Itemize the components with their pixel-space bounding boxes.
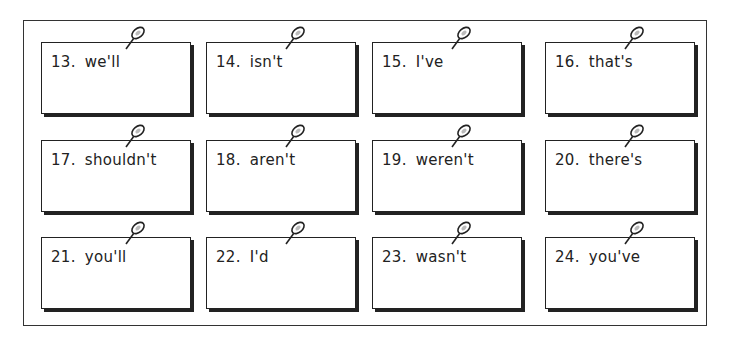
card-number: 22. [216,248,241,266]
card-label: 21.you'll [51,248,127,266]
word-card: 24.you've [545,237,695,309]
card-number: 19. [382,151,407,169]
card-label: 15.I've [382,53,444,71]
card-number: 17. [51,151,76,169]
card-word: I've [416,53,444,71]
card-word: I'd [250,248,269,266]
pushpin-icon [122,123,148,149]
card-word: you've [589,248,641,266]
word-card: 21.you'll [41,237,191,309]
card-word: that's [589,53,633,71]
card-label: 18.aren't [216,151,295,169]
pushpin-icon [448,25,474,51]
word-card: 15.I've [372,42,522,114]
card-label: 16.that's [555,53,633,71]
card-word: shouldn't [85,151,157,169]
pushpin-icon [282,123,308,149]
pushpin-icon [448,123,474,149]
card-word: we'll [85,53,120,71]
pushpin-icon [122,220,148,246]
card-word: wasn't [416,248,467,266]
pushpin-icon [621,123,647,149]
card-number: 15. [382,53,407,71]
card-label: 14.isn't [216,53,283,71]
card-number: 23. [382,248,407,266]
card-number: 16. [555,53,580,71]
pushpin-icon [621,25,647,51]
word-card: 18.aren't [206,140,356,212]
word-card: 13.we'll [41,42,191,114]
pushpin-icon [621,220,647,246]
card-number: 14. [216,53,241,71]
card-label: 22.I'd [216,248,269,266]
card-word: aren't [250,151,296,169]
pushpin-icon [122,25,148,51]
card-word: you'll [85,248,127,266]
card-label: 17.shouldn't [51,151,157,169]
card-word: isn't [250,53,283,71]
pushpin-icon [282,220,308,246]
card-label: 23.wasn't [382,248,466,266]
card-number: 13. [51,53,76,71]
pushpin-icon [448,220,474,246]
card-number: 21. [51,248,76,266]
card-number: 24. [555,248,580,266]
card-label: 13.we'll [51,53,120,71]
card-word: there's [589,151,643,169]
card-number: 18. [216,151,241,169]
word-card: 19.weren't [372,140,522,212]
pushpin-icon [282,25,308,51]
word-card: 23.wasn't [372,237,522,309]
word-card: 14.isn't [206,42,356,114]
card-number: 20. [555,151,580,169]
card-label: 19.weren't [382,151,474,169]
word-card: 22.I'd [206,237,356,309]
card-label: 24.you've [555,248,640,266]
word-card: 20.there's [545,140,695,212]
card-label: 20.there's [555,151,643,169]
word-card: 17.shouldn't [41,140,191,212]
card-word: weren't [416,151,474,169]
word-card: 16.that's [545,42,695,114]
